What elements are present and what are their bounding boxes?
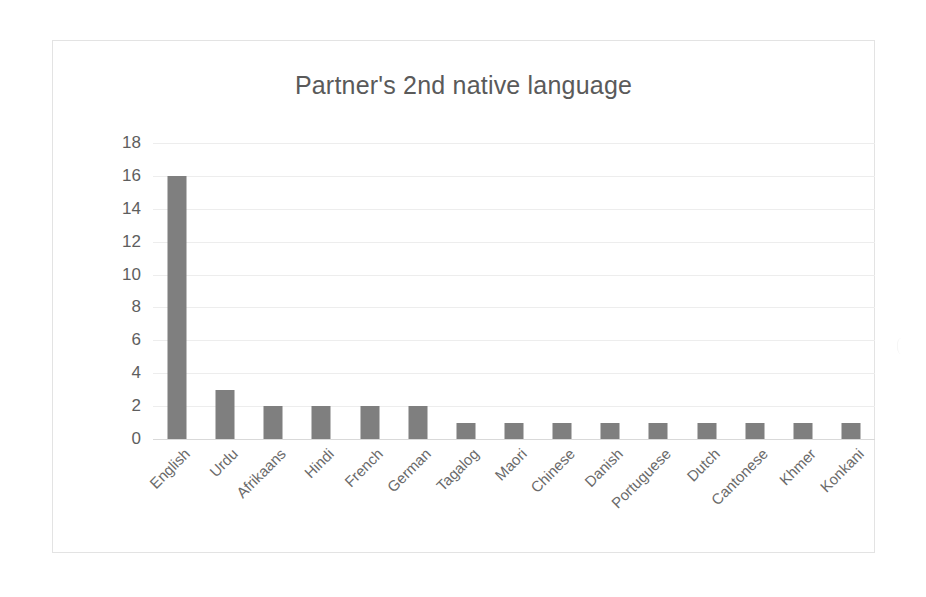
bar[interactable] (456, 423, 475, 439)
bar[interactable] (793, 423, 812, 439)
x-axis-tick-label-text: Konkani (817, 445, 867, 495)
bar[interactable] (504, 423, 523, 439)
bar-group: Maori (490, 143, 538, 439)
bar-group: Konkani (827, 143, 875, 439)
y-axis-tick-label: 8 (97, 297, 141, 317)
scan-artifact (897, 338, 908, 354)
y-axis-tick-label: 16 (97, 166, 141, 186)
bar-group: Tagalog (442, 143, 490, 439)
chart-title: Partner's 2nd native language (53, 71, 874, 100)
bar-group: Portuguese (634, 143, 682, 439)
bar[interactable] (216, 390, 235, 439)
x-axis-tick-label-text: Dutch (683, 445, 723, 485)
plot-area: 181614121086420 EnglishUrduAfrikaansHind… (153, 143, 875, 439)
bar[interactable] (841, 423, 860, 439)
bar-group: French (346, 143, 394, 439)
bar[interactable] (264, 406, 283, 439)
bar[interactable] (697, 423, 716, 439)
bar-group: Hindi (297, 143, 345, 439)
y-axis-tick-label: 0 (97, 429, 141, 449)
bar-group: Afrikaans (249, 143, 297, 439)
bar[interactable] (360, 406, 379, 439)
bar-group: German (394, 143, 442, 439)
bar-series: EnglishUrduAfrikaansHindiFrenchGermanTag… (153, 143, 875, 439)
x-axis-tick-label-text: Khmer (776, 445, 819, 488)
bar[interactable] (168, 176, 187, 439)
bar[interactable] (745, 423, 764, 439)
bar-group: English (153, 143, 201, 439)
x-axis-tick-label-text: Tagalog (433, 445, 482, 494)
bar[interactable] (601, 423, 620, 439)
x-axis-tick-label-text: English (146, 445, 193, 492)
bar-group: Dutch (682, 143, 730, 439)
y-axis-tick-label: 4 (97, 363, 141, 383)
y-axis-tick-label: 18 (97, 133, 141, 153)
x-axis-tick-label-text: Urdu (206, 445, 241, 480)
y-axis-tick-label: 14 (97, 199, 141, 219)
x-axis-tick-label-text: Maori (491, 445, 530, 484)
bar-group: Danish (586, 143, 634, 439)
bar-group: Cantonese (731, 143, 779, 439)
x-axis-tick-label-text: French (341, 445, 386, 490)
bar-group: Chinese (538, 143, 586, 439)
x-axis-tick-label-text: German (383, 445, 433, 495)
x-axis-tick-label: Konkani (855, 407, 905, 457)
x-axis-tick-label-text: Danish (581, 445, 626, 490)
bar[interactable] (553, 423, 572, 439)
chart-container: Partner's 2nd native language 1816141210… (52, 40, 875, 553)
bar-group: Urdu (201, 143, 249, 439)
y-axis-tick-label: 10 (97, 265, 141, 285)
y-axis-tick-label: 12 (97, 232, 141, 252)
chart-screenshot: Partner's 2nd native language 1816141210… (0, 0, 926, 597)
y-axis-tick-label: 2 (97, 396, 141, 416)
bar-group: Khmer (779, 143, 827, 439)
bar[interactable] (312, 406, 331, 439)
x-axis-tick-label-text: Hindi (301, 445, 337, 481)
bar[interactable] (408, 406, 427, 439)
y-axis-tick-label: 6 (97, 330, 141, 350)
x-axis-tick-label-text: Chinese (527, 445, 578, 496)
bar[interactable] (649, 423, 668, 439)
